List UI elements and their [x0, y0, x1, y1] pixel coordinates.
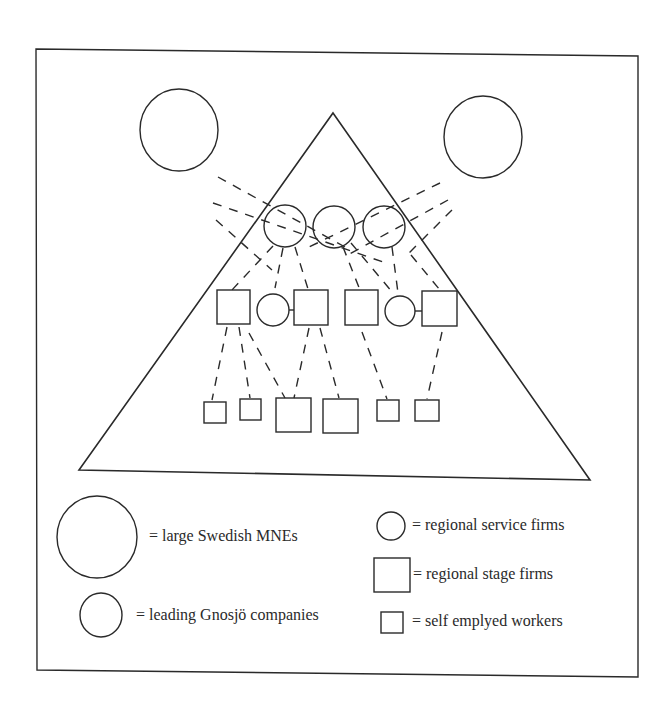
legend-label-large-mne: = large Swedish MNEs — [149, 527, 298, 545]
stage-firm-4 — [422, 291, 457, 326]
legend-medium-circle-icon — [80, 593, 122, 637]
self-employed-4 — [323, 399, 358, 433]
self-employed-3 — [276, 398, 311, 432]
region-triangle — [79, 113, 590, 480]
regional-links — [212, 327, 442, 400]
service-firm-1 — [257, 294, 289, 326]
self-employed-5 — [377, 400, 399, 421]
legend-label-regional-service: = regional service firms — [412, 516, 565, 534]
mne-circle-left — [140, 89, 218, 171]
network-diagram — [0, 0, 672, 714]
legend-small-square-icon — [381, 612, 403, 633]
legend-large-square-icon — [374, 558, 410, 592]
legend-label-leading-gnosjo: = leading Gnosjö companies — [136, 606, 319, 624]
mne-circle-right — [444, 96, 522, 178]
leading-firm-1 — [264, 205, 306, 247]
legend-label-regional-stage: = regional stage firms — [413, 565, 553, 583]
self-employed-6 — [415, 400, 439, 421]
leading-firm-2 — [313, 206, 355, 248]
legend-small-circle-icon — [377, 512, 405, 540]
leading-links — [232, 243, 440, 293]
self-employed-1 — [204, 402, 226, 423]
stage-firm-1 — [217, 290, 250, 324]
stage-firm-3 — [345, 290, 378, 325]
stage-firm-2 — [294, 290, 328, 325]
legend-large-circle-icon — [57, 496, 137, 578]
legend-label-self-employed: = self emplyed workers — [412, 612, 563, 630]
self-employed-2 — [240, 399, 261, 420]
mne-links — [213, 177, 452, 270]
service-firm-2 — [385, 296, 415, 326]
